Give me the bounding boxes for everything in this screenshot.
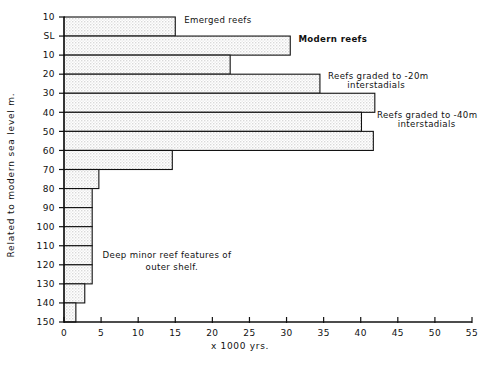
y-tick-label-3: 20 <box>43 69 55 79</box>
y-tick-label-6: 50 <box>43 127 55 137</box>
bar-2 <box>64 55 230 74</box>
y-tick-label-11: 100 <box>37 222 55 232</box>
y-tick-label-4: 30 <box>43 88 55 98</box>
bar-11 <box>64 227 92 246</box>
bar-0 <box>64 17 175 36</box>
bar-4 <box>64 93 375 112</box>
annotation-reefs-40m-line2: interstadials <box>398 119 456 129</box>
y-tick-label-9: 80 <box>43 184 55 194</box>
y-tick-label-0: 10 <box>43 12 55 22</box>
y-tick-label-15: 140 <box>37 298 55 308</box>
annotation-emerged-reefs: Emerged reefs <box>184 15 252 25</box>
bar-10 <box>64 208 92 227</box>
y-tick-label-2: 10 <box>43 50 55 60</box>
annotation-modern-reefs: Modern reefs <box>298 34 367 44</box>
x-tick-label-0: 0 <box>61 328 67 338</box>
x-tick-label-3: 15 <box>169 328 181 338</box>
annotation-reefs-20m-line2: interstadials <box>347 80 405 90</box>
y-axis: 10SL102030405060708090100110120130140150 <box>37 12 65 327</box>
y-tick-label-14: 130 <box>37 279 55 289</box>
bar-8 <box>64 170 99 189</box>
bar-3 <box>64 74 320 93</box>
bar-14 <box>64 284 85 303</box>
bar-5 <box>64 112 361 131</box>
bar-13 <box>64 265 92 284</box>
x-tick-label-11: 55 <box>466 328 478 338</box>
x-tick-label-6: 30 <box>280 328 292 338</box>
x-tick-label-2: 10 <box>132 328 144 338</box>
x-axis-title: x 1000 yrs. <box>211 341 269 351</box>
bar-9 <box>64 189 92 208</box>
y-tick-label-13: 120 <box>37 260 55 270</box>
y-tick-label-5: 40 <box>43 108 55 118</box>
bar-7 <box>64 150 172 169</box>
bar-1 <box>64 36 290 55</box>
y-tick-label-12: 110 <box>37 241 55 251</box>
chart-canvas: 10SL102030405060708090100110120130140150… <box>0 0 491 366</box>
bar-15 <box>64 303 76 322</box>
x-tick-label-7: 35 <box>318 328 330 338</box>
y-tick-label-1: SL <box>43 31 55 41</box>
bar-12 <box>64 246 92 265</box>
y-tick-label-8: 70 <box>43 165 55 175</box>
annotation-deep-minor-line1: Deep minor reef features of <box>103 250 232 260</box>
y-tick-label-7: 60 <box>43 146 55 156</box>
x-tick-label-1: 5 <box>98 328 104 338</box>
x-tick-label-4: 20 <box>206 328 218 338</box>
reef-chronology-chart: 10SL102030405060708090100110120130140150… <box>0 0 491 366</box>
x-tick-label-9: 45 <box>392 328 404 338</box>
y-tick-label-10: 90 <box>43 203 55 213</box>
x-tick-label-5: 25 <box>243 328 255 338</box>
y-axis-title: Related to modern sea level m. <box>6 92 16 257</box>
annotation-deep-minor-line2: outer shelf. <box>146 262 199 272</box>
x-tick-label-8: 40 <box>355 328 367 338</box>
bars-group <box>64 17 375 322</box>
y-tick-label-16: 150 <box>37 317 55 327</box>
bar-6 <box>64 131 373 150</box>
x-axis: 0510152025303540455055 <box>61 317 478 338</box>
x-tick-label-10: 50 <box>429 328 441 338</box>
